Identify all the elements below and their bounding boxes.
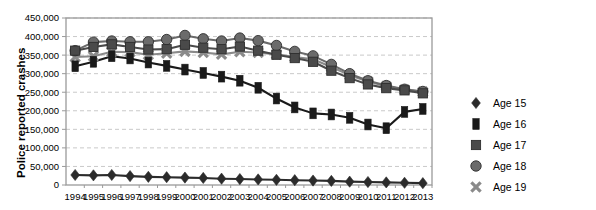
data-point-marker (418, 89, 427, 98)
data-point-marker (290, 175, 299, 186)
data-point-marker (328, 109, 334, 120)
data-point-marker (89, 42, 98, 51)
y-tick-label: 50,000 (30, 161, 59, 172)
x-marker-icon (465, 176, 487, 197)
data-point-marker (107, 169, 116, 180)
y-tick-label: 0 (54, 179, 59, 190)
data-point-marker (71, 169, 80, 180)
data-point-marker (90, 56, 96, 67)
data-point-marker (254, 46, 263, 55)
data-point-marker (364, 176, 373, 187)
legend-item-age-15[interactable]: Age 15 (465, 92, 593, 113)
square-marker-icon (465, 134, 487, 155)
circle-marker-icon (465, 155, 487, 176)
data-point-marker (472, 97, 481, 108)
data-point-marker (345, 74, 354, 83)
data-point-marker (218, 71, 224, 82)
data-point-marker (382, 177, 391, 188)
data-point-marker (382, 84, 391, 93)
y-tick-label: 100,000 (25, 142, 59, 153)
chart-container: Police reported crashes 050,000100,00015… (0, 0, 596, 210)
data-point-marker (255, 82, 261, 93)
legend-item-label: Age 16 (487, 118, 526, 130)
y-tick-labels: 050,000100,000150,000200,000250,000300,0… (25, 12, 59, 190)
data-point-marker (310, 108, 316, 119)
chart-legend: Age 15Age 16Age 17Age 18Age 19 (465, 92, 593, 197)
y-tick-label: 250,000 (25, 87, 59, 98)
data-point-marker (198, 34, 208, 44)
data-point-marker (163, 60, 169, 71)
data-point-marker (471, 140, 480, 149)
data-point-marker (127, 53, 133, 64)
data-point-marker (161, 34, 171, 44)
data-point-marker (182, 64, 188, 75)
data-point-marker (107, 40, 116, 49)
y-tick-label: 450,000 (25, 12, 59, 23)
data-point-marker (273, 93, 279, 104)
data-point-marker (400, 177, 409, 188)
data-point-marker (272, 174, 281, 185)
data-point-marker (235, 42, 244, 51)
data-point-marker (471, 160, 481, 170)
data-point-marker (181, 172, 190, 183)
data-point-marker (418, 178, 427, 189)
series-markers-age-19 (71, 47, 428, 97)
legend-item-age-16[interactable]: Age 16 (465, 113, 593, 134)
data-point-marker (162, 45, 171, 54)
legend-item-age-18[interactable]: Age 18 (465, 155, 593, 176)
data-point-marker (254, 174, 263, 185)
data-point-marker (308, 57, 317, 66)
data-point-marker (109, 51, 115, 62)
data-point-marker (217, 173, 226, 184)
data-point-marker (237, 75, 243, 86)
legend-item-label: Age 15 (487, 97, 526, 109)
data-point-marker (365, 119, 371, 130)
plot-frame (66, 18, 432, 185)
data-point-marker (126, 170, 135, 181)
data-point-marker (162, 172, 171, 183)
data-point-marker (144, 45, 153, 54)
data-point-marker (89, 170, 98, 181)
data-point-marker (471, 182, 480, 191)
data-point-marker (200, 68, 206, 79)
data-point-marker (346, 112, 352, 123)
y-tick-label: 150,000 (25, 124, 59, 135)
data-point-marker (72, 61, 78, 72)
data-point-marker (253, 35, 263, 45)
y-tick-label: 400,000 (25, 31, 59, 42)
data-point-marker (145, 57, 151, 68)
data-point-marker (235, 173, 244, 184)
data-series-group (70, 30, 428, 189)
data-point-marker (125, 42, 134, 51)
y-tick-label: 350,000 (25, 50, 59, 61)
data-point-marker (290, 53, 299, 62)
data-point-marker (199, 43, 208, 52)
y-tick-label: 300,000 (25, 68, 59, 79)
legend-item-label: Age 18 (487, 160, 526, 172)
data-point-marker (217, 45, 226, 54)
data-point-marker (180, 40, 189, 49)
data-point-marker (71, 46, 80, 55)
data-point-marker (420, 104, 426, 115)
data-point-marker (144, 171, 153, 182)
data-point-marker (292, 102, 298, 113)
legend-item-age-17[interactable]: Age 17 (465, 134, 593, 155)
legend-item-label: Age 17 (487, 139, 526, 151)
x-tick-labels: 1994199519961997199819992000200120022003… (65, 191, 434, 202)
data-point-marker (199, 172, 208, 183)
data-point-marker (473, 118, 479, 129)
legend-item-age-19[interactable]: Age 19 (465, 176, 593, 197)
legend-item-label: Age 19 (487, 181, 526, 193)
plot-border (66, 18, 432, 185)
data-point-marker (180, 30, 190, 40)
data-point-marker (400, 86, 409, 95)
data-point-marker (383, 123, 389, 134)
diamond-marker-icon (465, 92, 487, 113)
data-point-marker (272, 50, 281, 59)
x-tick-label: 2013 (412, 191, 433, 202)
grid-lines (62, 18, 432, 188)
data-point-marker (327, 66, 336, 75)
data-point-marker (363, 80, 372, 89)
data-point-marker (271, 40, 281, 50)
tall-rect-marker-icon (465, 113, 487, 134)
